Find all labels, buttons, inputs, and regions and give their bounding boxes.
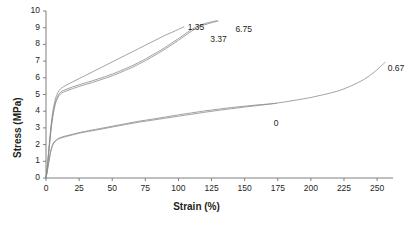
- series-label-0-67: 0.67: [388, 63, 405, 73]
- stress-strain-chart: Stress (MPa) Strain (%) 012345678910 025…: [0, 0, 409, 225]
- y-tick-label: 9: [20, 22, 40, 32]
- y-tick-label: 10: [20, 5, 40, 15]
- x-tick-label: 175: [264, 183, 292, 193]
- x-axis-title: Strain (%): [0, 201, 393, 212]
- series-label-6-75: 6.75: [235, 24, 252, 34]
- x-tick-label: 75: [131, 183, 159, 193]
- series-curve: [46, 103, 276, 178]
- y-tick-label: 6: [20, 72, 40, 82]
- series-curves: [46, 21, 385, 178]
- y-tick-label: 1: [20, 155, 40, 165]
- x-tick-label: 100: [164, 183, 192, 193]
- y-tick-label: 2: [20, 139, 40, 149]
- y-tick-label: 4: [20, 105, 40, 115]
- x-tick-label: 225: [330, 183, 358, 193]
- series-curve: [46, 62, 385, 178]
- x-tick-label: 125: [198, 183, 226, 193]
- x-tick-label: 250: [363, 183, 391, 193]
- y-tick-label: 0: [20, 172, 40, 182]
- y-tick-label: 3: [20, 122, 40, 132]
- x-tick-label: 0: [32, 183, 60, 193]
- x-tick-label: 50: [98, 183, 126, 193]
- series-curve: [46, 21, 217, 178]
- x-tick-label: 200: [297, 183, 325, 193]
- y-tick-label: 5: [20, 89, 40, 99]
- series-curve: [46, 27, 184, 178]
- series-label-1-35: 1.35: [188, 22, 205, 32]
- y-tick-label: 7: [20, 55, 40, 65]
- series-curve: [46, 21, 218, 178]
- x-tick-label: 150: [231, 183, 259, 193]
- y-tick-label: 8: [20, 38, 40, 48]
- series-label-0: 0: [274, 118, 279, 128]
- x-tick-label: 25: [65, 183, 93, 193]
- series-label-3-37: 3.37: [210, 34, 227, 44]
